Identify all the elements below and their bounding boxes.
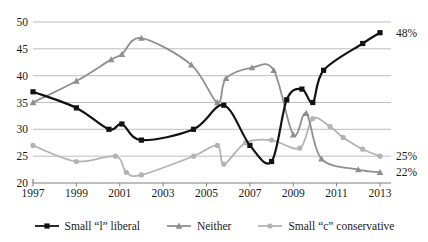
- y-tick-label: 40: [17, 70, 29, 82]
- legend-label: Small “l” liberal: [65, 220, 140, 232]
- y-tick-label: 50: [17, 16, 29, 28]
- series-end-label-neither: 22%: [396, 166, 418, 178]
- x-tick-label: 2009: [282, 187, 305, 199]
- chart-legend: Small “l” liberalNeitherSmall “c” conser…: [0, 213, 428, 239]
- y-tick-label: 30: [17, 123, 29, 135]
- series-markers-small-c-conservative: [30, 116, 382, 177]
- x-tick-label: 1999: [65, 187, 88, 199]
- x-tick-label: 2005: [195, 187, 218, 199]
- legend-swatch-triangle-icon: [166, 221, 192, 231]
- x-tick-label: 2011: [325, 187, 348, 199]
- x-tick-label: 1997: [22, 187, 45, 199]
- series-markers-small-l-liberal: [30, 30, 382, 164]
- chart-figure: 2025303540455019971999200120032005200720…: [0, 0, 428, 242]
- x-tick-label: 2007: [238, 187, 261, 199]
- series-end-label-small-c-conservative: 25%: [396, 150, 418, 162]
- series-end-label-small-l-liberal: 48%: [396, 27, 418, 39]
- legend-label: Neither: [197, 220, 231, 232]
- series-line-small-l-liberal: [33, 33, 380, 164]
- y-tick-label: 35: [17, 97, 29, 109]
- legend-swatch-square-icon: [34, 221, 60, 231]
- legend-item-small-l-liberal: Small “l” liberal: [34, 220, 140, 232]
- legend-swatch-circle-icon: [257, 221, 283, 231]
- y-tick-label: 45: [17, 43, 29, 55]
- line-chart-canvas: 2025303540455019971999200120032005200720…: [0, 0, 428, 214]
- x-tick-label: 2003: [152, 187, 175, 199]
- y-tick-label: 25: [17, 150, 29, 162]
- x-tick-label: 2001: [108, 187, 131, 199]
- legend-label: Small “c” conservative: [288, 220, 394, 232]
- x-tick-label: 2013: [369, 187, 392, 199]
- series-markers-neither: [30, 35, 384, 175]
- series-line-neither: [33, 38, 380, 172]
- legend-item-small-c-conservative: Small “c” conservative: [257, 220, 394, 232]
- legend-item-neither: Neither: [166, 220, 231, 232]
